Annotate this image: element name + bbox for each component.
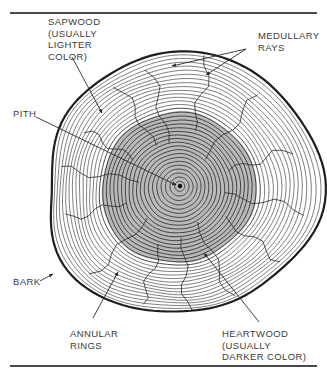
label-medullary-rays: MEDULLARY RAYS xyxy=(258,30,320,53)
label-heartwood: HEARTWOOD (USUALLY DARKER COLOR) xyxy=(222,328,306,363)
label-pith: PITH xyxy=(13,108,36,120)
label-sapwood: SAPWOOD (USUALLY LIGHTER COLOR) xyxy=(48,16,100,62)
label-annular-rings: ANNULAR RINGS xyxy=(70,328,118,351)
label-bark: BARK xyxy=(13,276,40,288)
pith-dot xyxy=(178,184,182,188)
